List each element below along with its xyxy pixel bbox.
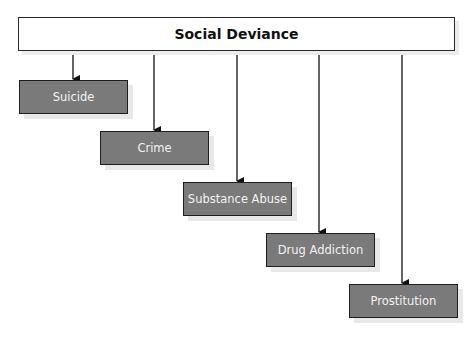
node-crime: Crime (100, 131, 209, 165)
node-label: Crime (137, 141, 171, 155)
node-label: Suicide (53, 90, 95, 104)
root-node-label: Social Deviance (174, 26, 298, 42)
node-suicide: Suicide (19, 80, 128, 114)
node-label: Substance Abuse (188, 192, 287, 206)
node-label: Prostitution (371, 294, 437, 308)
root-node-social-deviance: Social Deviance (18, 17, 455, 51)
node-drug-addiction: Drug Addiction (266, 233, 375, 267)
node-label: Drug Addiction (278, 243, 364, 257)
node-substance-abuse: Substance Abuse (183, 182, 292, 216)
node-prostitution: Prostitution (349, 284, 458, 318)
